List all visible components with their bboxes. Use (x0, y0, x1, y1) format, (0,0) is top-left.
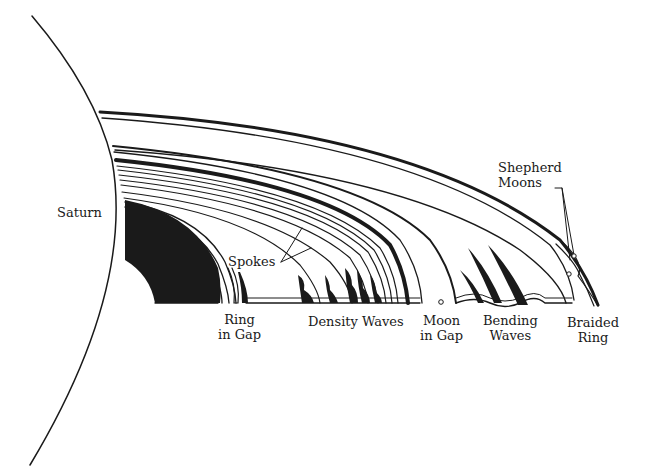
braided-ring-strand (556, 244, 594, 306)
moon-in-gap (439, 300, 444, 305)
label-braided-ring: Braided Ring (567, 315, 619, 345)
shepherd-moon-inner (567, 272, 571, 276)
label-saturn: Saturn (57, 205, 102, 220)
label-density-waves: Density Waves (308, 314, 404, 329)
spoke-shape (325, 275, 338, 303)
bending-wave-dark (460, 270, 484, 303)
label-spokes: Spokes (228, 254, 275, 269)
label-moon-in-gap: Moon in Gap (420, 313, 463, 343)
shepherd-moon-outer (572, 254, 576, 258)
saturn-rings-diagram (0, 0, 656, 476)
label-ring-in-gap: Ring in Gap (218, 312, 261, 342)
ring-in-gap-dark (238, 272, 248, 303)
label-shepherd-moons: Shepherd Moons (498, 160, 562, 190)
saturn-limb (30, 16, 116, 465)
braided-ring-strand (560, 240, 598, 306)
label-bending-waves: Bending Waves (483, 313, 538, 343)
spoke-shape (298, 275, 314, 303)
